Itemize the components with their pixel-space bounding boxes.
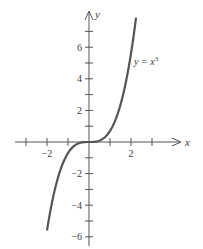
y-axis-label: y <box>94 8 100 20</box>
x-tick-label: −2 <box>42 148 53 159</box>
x-axis-label: x <box>184 136 190 148</box>
y-tick-label: 6 <box>77 42 82 53</box>
curve-label-main: y = x <box>133 56 155 67</box>
y-tick-label: −2 <box>71 168 82 179</box>
cubic-function-chart: −22642−2−4−6 x y y = x3 <box>0 0 203 249</box>
y-tick-label: −6 <box>71 231 82 242</box>
curve-label-exponent: 3 <box>155 55 159 63</box>
y-tick-label: −4 <box>71 200 82 211</box>
y-tick-label: 4 <box>77 73 82 84</box>
x-tick-label: 2 <box>129 148 134 159</box>
cubic-curve <box>47 18 136 231</box>
y-tick-label: 2 <box>77 105 82 116</box>
axes <box>15 11 181 246</box>
curve-label: y = x3 <box>133 55 159 67</box>
